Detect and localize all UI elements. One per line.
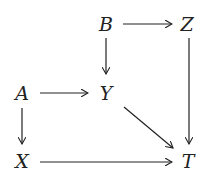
node-a: A: [13, 82, 29, 104]
node-x: X: [13, 150, 30, 172]
causal-diagram: B Z A Y X T: [0, 0, 209, 179]
node-t: T: [182, 150, 196, 172]
node-z: Z: [179, 13, 194, 35]
edge-y-t: [124, 107, 173, 148]
node-y: Y: [100, 82, 115, 104]
node-b: B: [98, 13, 113, 35]
